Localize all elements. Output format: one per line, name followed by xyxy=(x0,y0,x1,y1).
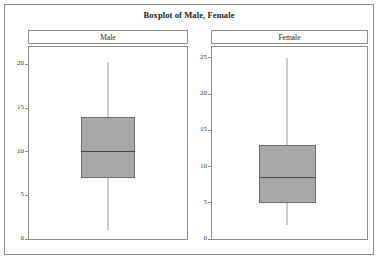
y-tick-mark xyxy=(208,202,212,203)
median-line xyxy=(81,151,135,152)
median-line xyxy=(259,177,316,178)
y-tick-label: 5 xyxy=(21,190,25,198)
y-tick-mark xyxy=(25,151,29,152)
box-iqr xyxy=(81,117,135,178)
y-tick-label: 15 xyxy=(17,103,24,111)
y-tick-label: 10 xyxy=(200,162,207,170)
y-tick-label: 0 xyxy=(204,234,208,242)
y-tick-label: 25 xyxy=(200,53,207,61)
plot-area-male: 05101520 xyxy=(28,46,188,240)
whisker-lower xyxy=(287,203,288,225)
panel-header-female: Female xyxy=(211,30,368,44)
y-tick-mark xyxy=(208,130,212,131)
y-tick-mark xyxy=(25,64,29,65)
whisker-upper xyxy=(108,62,109,117)
y-tick-label: 0 xyxy=(21,234,25,242)
whisker-upper xyxy=(287,58,288,145)
panel-header-male: Male xyxy=(28,30,188,44)
y-tick-label: 20 xyxy=(17,59,24,67)
y-tick-label: 10 xyxy=(17,147,24,155)
chart-title: Boxplot of Male, Female xyxy=(0,10,378,20)
y-tick-mark xyxy=(208,166,212,167)
y-tick-mark xyxy=(208,57,212,58)
y-tick-mark xyxy=(25,195,29,196)
y-tick-label: 15 xyxy=(200,125,207,133)
plot-area-female: 0510152025 xyxy=(211,46,368,240)
y-tick-label: 20 xyxy=(200,89,207,97)
y-tick-mark xyxy=(25,239,29,240)
y-tick-mark xyxy=(25,108,29,109)
y-tick-mark xyxy=(208,239,212,240)
boxplot-figure: Boxplot of Male, Female Male 05101520 Fe… xyxy=(0,0,378,259)
y-tick-label: 5 xyxy=(204,198,208,206)
whisker-lower xyxy=(108,178,109,230)
box-iqr xyxy=(259,145,316,203)
y-tick-mark xyxy=(208,94,212,95)
